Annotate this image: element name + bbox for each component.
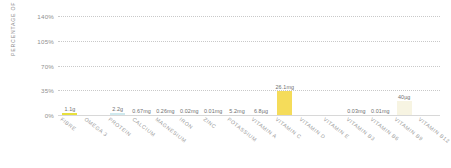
bar-value-label: 0.03mg — [347, 108, 366, 114]
bar-value-label: 2.2g — [112, 106, 123, 112]
bar-value-label: 0.67mg — [132, 108, 151, 114]
gridline-105 — [58, 41, 440, 42]
gridline-140 — [58, 16, 440, 17]
x-label-iron: IRON — [179, 116, 195, 130]
y-tick-label: 105% — [14, 37, 54, 44]
bar-value-label: 0.01mg — [204, 108, 223, 114]
bar-value-label: 26.1mg — [276, 84, 295, 90]
plot-area: 1.1g2.2g0.67mg0.26mg0.02mg0.01mg5.2mg6.8… — [58, 16, 440, 115]
bar-value-label: 6.8µg — [254, 108, 268, 114]
x-label-calcium: CALCIUM — [131, 116, 157, 138]
x-label-vitamin-b12: VITAMIN B12 — [417, 116, 451, 144]
y-tick-label: 35% — [14, 87, 54, 94]
y-tick-label: 70% — [14, 62, 54, 69]
x-label-fibre: FIBRE — [59, 116, 77, 132]
bar-protein: 2.2g — [110, 113, 125, 115]
bar-value-label: 5.2mg — [229, 108, 244, 114]
y-tick-label: 0% — [14, 112, 54, 119]
x-label-protein: PROTEIN — [107, 116, 132, 138]
bar-fibre: 1.1g — [62, 113, 77, 115]
bar-vitamin-b9: 40µg — [397, 101, 412, 115]
x-axis-category-labels: FIBREOMEGA 3PROTEINCALCIUMMAGNESIUMIRONZ… — [58, 116, 440, 168]
bar-value-label: 1.1g — [64, 106, 75, 112]
y-axis-tick-labels: 0%35%70%105%140% — [14, 16, 54, 115]
gridline-35 — [58, 90, 440, 91]
x-label-omega-3: OMEGA 3 — [83, 116, 109, 138]
x-label-zinc: ZINC — [202, 116, 217, 130]
y-tick-label: 140% — [14, 13, 54, 20]
bar-vitamin-c: 26.1mg — [277, 91, 292, 115]
gridline-70 — [58, 66, 440, 67]
bar-value-label: 0.01mg — [371, 108, 390, 114]
bar-value-label: 0.02mg — [180, 108, 199, 114]
bar-value-label: 0.26mg — [156, 108, 175, 114]
bar-value-label: 40µg — [398, 94, 411, 100]
